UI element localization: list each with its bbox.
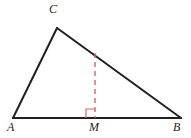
right-angle-marker-icon	[86, 109, 95, 118]
vertex-label-b: B	[173, 121, 180, 133]
geometry-figure: A B C M	[0, 0, 191, 138]
geometry-canvas	[0, 0, 191, 138]
vertex-label-c: C	[49, 3, 57, 15]
vertex-label-m: M	[89, 121, 99, 133]
segment-AC	[13, 28, 57, 118]
vertex-label-a: A	[7, 121, 14, 133]
segment-CB	[57, 28, 181, 118]
